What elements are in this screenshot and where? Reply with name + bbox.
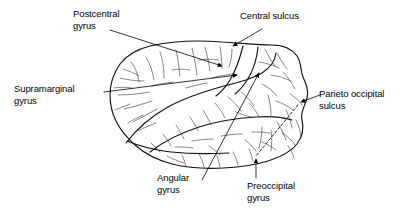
label-postcentral-gyrus: Postcentral gyrus	[73, 8, 119, 31]
label-parieto-occipital-sulcus: Parieto occipital sulcus	[319, 88, 384, 111]
label-angular-gyrus: Angular gyrus	[157, 172, 189, 195]
label-preoccipital-gyrus: Preoccipital gyrus	[247, 180, 295, 203]
brain-anatomy-figure: Postcentral gyrus Central sulcus Suprama…	[0, 0, 410, 212]
label-supramarginal-gyrus: Supramarginal gyrus	[14, 83, 74, 106]
label-central-sulcus: Central sulcus	[240, 10, 299, 22]
